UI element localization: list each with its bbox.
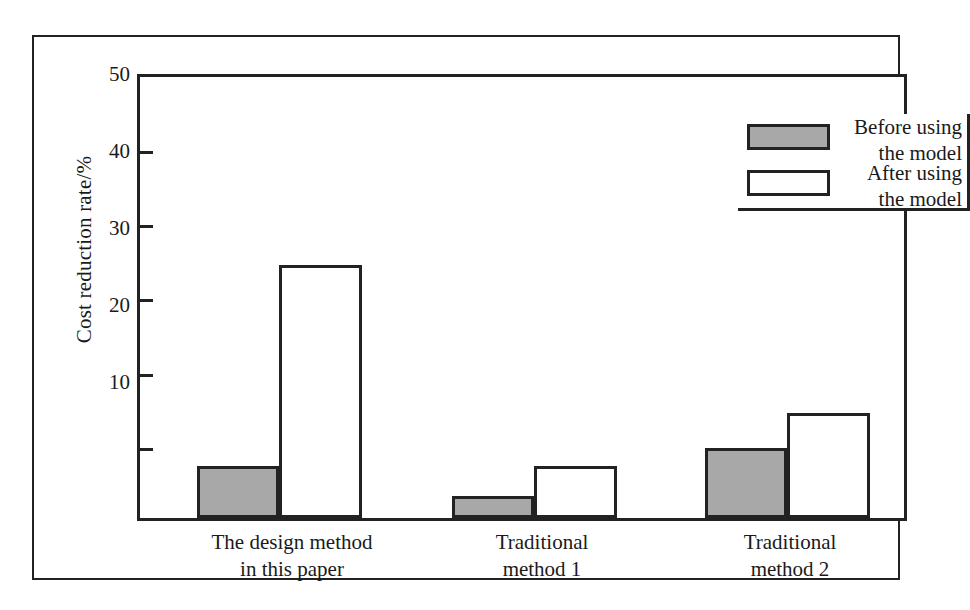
- y-tick-label-10: 10: [109, 372, 130, 393]
- y-tick-20: [140, 374, 153, 377]
- legend-item-before: Before using the model: [738, 118, 967, 164]
- x-axis-category-labels: The design method in this paper Traditio…: [137, 529, 907, 599]
- legend: Before using the model After using the m…: [738, 114, 970, 211]
- plot-inner: Before using the model After using the m…: [140, 77, 904, 518]
- category-label-design-method-line1: The design method: [167, 529, 417, 556]
- y-tick-10: [140, 448, 153, 451]
- y-tick-40: [140, 225, 153, 228]
- category-label-traditional-2-line2: method 2: [665, 556, 915, 583]
- figure-border: Cost reduction rate/% 50 40 30 20 10: [32, 35, 900, 580]
- legend-label-after-line2: the model: [838, 186, 962, 212]
- category-label-traditional-2: Traditional method 2: [665, 529, 915, 583]
- y-tick-label-30: 30: [109, 218, 130, 239]
- y-tick-50: [140, 151, 153, 154]
- bar-before-design-method: [197, 466, 279, 518]
- bar-before-traditional-1: [452, 496, 534, 518]
- y-tick-label-40: 40: [109, 141, 130, 162]
- plot-area: Before using the model After using the m…: [137, 74, 907, 521]
- bar-chart: Cost reduction rate/% 50 40 30 20 10: [34, 37, 898, 578]
- category-label-traditional-1-line1: Traditional: [417, 529, 667, 556]
- category-label-design-method-line2: in this paper: [167, 556, 417, 583]
- legend-label-after: After using the model: [838, 160, 962, 213]
- y-tick-label-20: 20: [109, 295, 130, 316]
- category-label-design-method: The design method in this paper: [167, 529, 417, 583]
- y-tick-30: [140, 299, 153, 302]
- bar-after-design-method: [279, 265, 362, 518]
- bar-before-traditional-2: [705, 448, 787, 518]
- bar-after-traditional-2: [787, 413, 870, 518]
- legend-item-after: After using the model: [738, 164, 967, 210]
- legend-swatch-before-icon: [747, 124, 830, 150]
- legend-label-before: Before using the model: [838, 114, 962, 167]
- y-axis-tick-labels: 50 40 30 20 10: [82, 74, 130, 521]
- bar-after-traditional-1: [534, 466, 617, 518]
- legend-label-before-line1: Before using: [838, 114, 962, 140]
- category-label-traditional-1-line2: method 1: [417, 556, 667, 583]
- legend-label-after-line1: After using: [838, 160, 962, 186]
- category-label-traditional-1: Traditional method 1: [417, 529, 667, 583]
- category-label-traditional-2-line1: Traditional: [665, 529, 915, 556]
- y-tick-label-50: 50: [109, 64, 130, 85]
- legend-swatch-after-icon: [747, 170, 830, 196]
